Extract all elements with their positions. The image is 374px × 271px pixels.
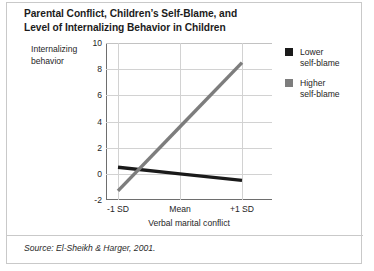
figure-title: Parental Conflict, Children’s Self-Blame… <box>24 7 324 35</box>
legend-swatch-icon-1 <box>285 79 293 87</box>
series-lines <box>106 43 272 200</box>
y-tick--2: -2 <box>76 195 102 205</box>
legend-label-1-line-1: Higher <box>300 78 361 89</box>
source-note: Source: El-Sheikh & Harger, 2001. <box>24 243 155 253</box>
x-tick-2: +1 SD <box>230 204 254 214</box>
figure-card: Parental Conflict, Children’s Self-Blame… <box>6 2 362 264</box>
series-line-higher-self-blame <box>118 63 242 191</box>
y-tick-0: 0 <box>76 169 102 179</box>
x-tick-1: Mean <box>169 204 191 214</box>
legend-label-0-line-1: Lower <box>300 47 361 58</box>
figure-title-line-2: Level of Internalizing Behavior in Child… <box>24 21 324 35</box>
y-tick-6: 6 <box>76 90 102 100</box>
legend-label-1-line-2: self-blame <box>300 89 361 100</box>
y-tick-10: 10 <box>76 38 102 48</box>
chart-legend: Lowerself-blameHigherself-blame <box>285 47 361 109</box>
legend-label-1: Higherself-blame <box>300 78 361 100</box>
x-tick-0: -1 SD <box>107 204 129 214</box>
plot-area: -20246810 -1 SDMean+1 SD <box>106 43 272 200</box>
legend-label-0: Lowerself-blame <box>300 47 361 69</box>
x-axis-label: Verbal marital conflict <box>106 218 272 228</box>
y-tick-8: 8 <box>76 64 102 74</box>
legend-label-0-line-2: self-blame <box>300 58 361 69</box>
y-tick-4: 4 <box>76 117 102 127</box>
legend-item-1[interactable]: Higherself-blame <box>285 78 361 100</box>
figure-title-line-1: Parental Conflict, Children’s Self-Blame… <box>24 7 324 21</box>
figure-container: Parental Conflict, Children’s Self-Blame… <box>0 0 374 271</box>
legend-item-0[interactable]: Lowerself-blame <box>285 47 361 69</box>
y-tick-2: 2 <box>76 143 102 153</box>
legend-swatch-icon-0 <box>285 48 293 56</box>
footer-divider <box>7 235 363 236</box>
